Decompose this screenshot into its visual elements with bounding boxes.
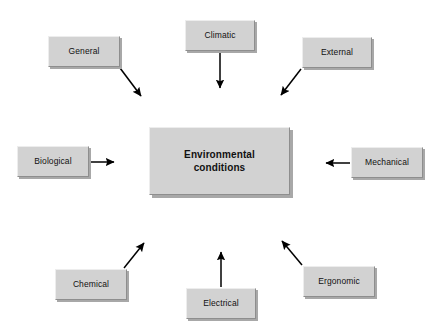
node-label-mechanical: Mechanical xyxy=(362,157,412,168)
node-chemical[interactable]: Chemical xyxy=(55,269,127,300)
node-general[interactable]: General xyxy=(48,36,120,67)
node-label-electrical: Electrical xyxy=(200,298,241,309)
node-label-line-1: Environmental xyxy=(184,149,255,160)
arrow-chemical xyxy=(124,243,144,268)
node-label-line-2: conditions xyxy=(194,162,246,173)
node-label-chemical: Chemical xyxy=(70,279,112,290)
arrow-ergonomic xyxy=(282,241,302,265)
node-climatic[interactable]: Climatic xyxy=(185,20,255,51)
node-mechanical[interactable]: Mechanical xyxy=(351,147,423,178)
node-ergonomic[interactable]: Ergonomic xyxy=(303,266,375,297)
node-label-climatic: Climatic xyxy=(201,30,238,41)
node-label-biological: Biological xyxy=(31,156,74,167)
diagram-canvas: Environmental conditions General Climati… xyxy=(0,0,432,333)
node-biological[interactable]: Biological xyxy=(17,146,89,177)
node-label-general: General xyxy=(66,46,103,57)
node-environmental-conditions[interactable]: Environmental conditions xyxy=(149,127,290,195)
arrow-external xyxy=(281,69,301,95)
node-label-external: External xyxy=(318,47,356,58)
arrow-general xyxy=(120,68,141,96)
node-electrical[interactable]: Electrical xyxy=(186,288,256,319)
node-external[interactable]: External xyxy=(302,37,372,68)
node-label-environmental-conditions: Environmental conditions xyxy=(181,148,258,175)
node-label-ergonomic: Ergonomic xyxy=(315,276,363,287)
